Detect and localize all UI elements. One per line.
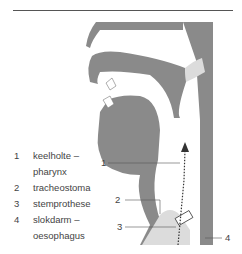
callout-3: 3 — [117, 221, 122, 232]
callout-4: 4 — [225, 232, 230, 243]
legend: 1 keelholte – pharynx 2 tracheostoma 3 s… — [14, 148, 91, 244]
callout-1: 1 — [101, 157, 106, 168]
legend-item-1: 1 keelholte – — [14, 148, 91, 164]
legend-item-2: 2 tracheostoma — [14, 180, 91, 196]
callout-2: 2 — [115, 194, 120, 205]
legend-item-3: 3 stemprothese — [14, 196, 91, 212]
legend-item-4: 4 slokdarm – — [14, 212, 91, 228]
